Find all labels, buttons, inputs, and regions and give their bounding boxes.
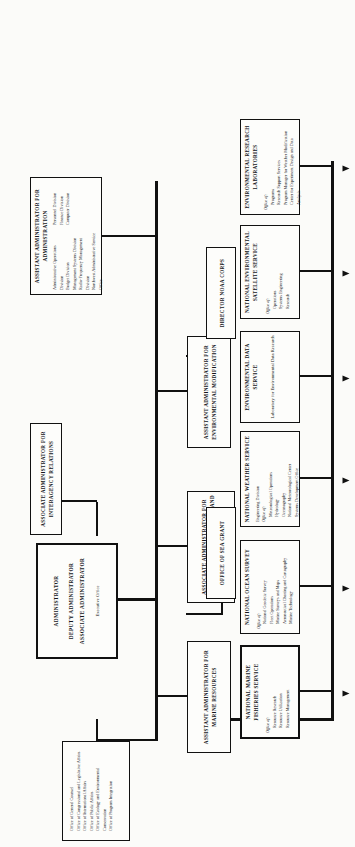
associate-administrator-interagency-relations: ASSOCIATE ADMINISTRATOR FOR INTERAGENCY … [30, 423, 62, 535]
marine-resources-title: ASSISTANT ADMINISTRATOR FOR MARINE RESOU… [200, 642, 218, 752]
national-weather-service: NATIONAL WEATHER SERVICE Engineering Div… [240, 431, 300, 527]
assistant-administrator-environmental-modification: ASSISTANT ADMINISTRATOR FOR ENVIRONMENTA… [187, 336, 231, 448]
staff-office-item: Office of Program Integration [108, 746, 115, 836]
connector-nos [299, 585, 332, 587]
staff-office-item: Office of Ecology and Environmental Cons… [95, 746, 108, 836]
nos-item: Marine Technology [288, 545, 295, 629]
environmental-research-laboratories: ENVIRONMENTAL RESEARCH LABORATORIES Offi… [240, 119, 300, 215]
connector-admin-v [102, 235, 155, 237]
office-of-sea-grant: OFFICE OF SEA GRANT [206, 507, 236, 599]
connector-staff-offices [96, 719, 98, 741]
connector-nmfs [299, 690, 332, 692]
sea-grant-title: OFFICE OF SEA GRANT [216, 519, 227, 588]
interagency-title: ASSOCIATE ADMINISTRATOR FOR INTERAGENCY … [37, 424, 55, 534]
environmental-data-service: ENVIRONMENTAL DATA SERVICE Laboratory fo… [240, 331, 300, 423]
connector-main-bus [155, 181, 158, 741]
org-chart-image: Office of General Counsel Office of Cong… [0, 0, 355, 847]
connector-erl [299, 165, 332, 167]
administration-title: ASSISTANT ADMINISTRATOR FOR ADMINISTRATI… [31, 178, 49, 294]
director-noaa-corps: DIRECTOR NOAA CORPS [206, 247, 236, 339]
connector-eds [299, 375, 332, 377]
noaa-corps-title: DIRECTOR NOAA CORPS [216, 257, 227, 330]
connector-seagrant-v [186, 613, 222, 615]
administrator-box: ADMINISTRATOR DEPUTY ADMINISTRATOR ASSOC… [36, 543, 118, 659]
connector-emp-v [155, 545, 187, 547]
administration-division: Northwest Administrative Service Office [91, 232, 104, 290]
national-marine-fisheries-service: NATIONAL MARINE FISHERIES SERVICE Office… [240, 645, 300, 739]
administration-division: Computer Division [65, 182, 72, 225]
connector-lower-bus [331, 161, 334, 721]
connector-interagency-v [62, 500, 97, 502]
connector-ness [299, 270, 332, 272]
associate-administrator-title: ASSOCIATE ADMINISTRATOR [75, 556, 86, 646]
administrator-title: ADMINISTRATOR [38, 573, 60, 628]
connector-envmod-v [155, 390, 187, 392]
env-modification-title: ASSISTANT ADMINISTRATOR FOR ENVIRONMENTA… [200, 337, 218, 447]
org-chart-canvas: Office of General Counsel Office of Cong… [0, 0, 355, 847]
administration-division: Radio-Frequency Management Division [78, 232, 91, 290]
nws-item: Systems Development Office [294, 436, 301, 522]
executive-office-label: Executive Office [86, 585, 101, 616]
staff-offices-box: Office of General Counsel Office of Cong… [62, 741, 130, 841]
assistant-administrator-marine-resources: ASSISTANT ADMINISTRATOR FOR MARINE RESOU… [187, 641, 231, 753]
administration-division: Administrative Operations Division [52, 232, 65, 290]
nmfs-title: NATIONAL MARINE FISHERIES SERVICE [242, 647, 260, 737]
nmfs-item: Resource Management [285, 651, 292, 733]
eds-item: Laboratory for Environmental Data Resear… [259, 332, 276, 422]
eds-title: ENVIRONMENTAL DATA SERVICE [241, 332, 259, 422]
assistant-administrator-administration: ASSISTANT ADMINISTRATOR FOR ADMINISTRATI… [30, 177, 102, 295]
connector-marine-v [155, 695, 187, 697]
national-environmental-satellite-service: NATIONAL ENVIRONMENTAL SATELLITE SERVICE… [240, 225, 300, 319]
national-ocean-survey: NATIONAL OCEAN SURVEY Office of: Nationa… [240, 540, 300, 634]
arrow-nos [343, 586, 350, 592]
arrow-erl [343, 166, 350, 172]
connector-head-down [118, 598, 156, 601]
connector-interagency [96, 502, 98, 536]
arrow-ness [343, 271, 350, 277]
erl-item: Center for Experiment Design and Data An… [289, 124, 302, 210]
arrow-eds [343, 376, 350, 382]
nws-title: NATIONAL WEATHER SERVICE [241, 432, 252, 526]
arrow-nmfs [343, 691, 350, 697]
deputy-administrator-title: DEPUTY ADMINISTRATOR [60, 561, 75, 642]
erl-title: ENVIRONMENTAL RESEARCH LABORATORIES [241, 120, 259, 214]
connector-nws [299, 477, 332, 479]
ness-title: NATIONAL ENVIRONMENTAL SATELLITE SERVICE [241, 226, 259, 318]
arrow-nws [343, 478, 350, 484]
nos-title: NATIONAL OCEAN SURVEY [241, 541, 252, 633]
ness-item: Research [285, 230, 292, 314]
